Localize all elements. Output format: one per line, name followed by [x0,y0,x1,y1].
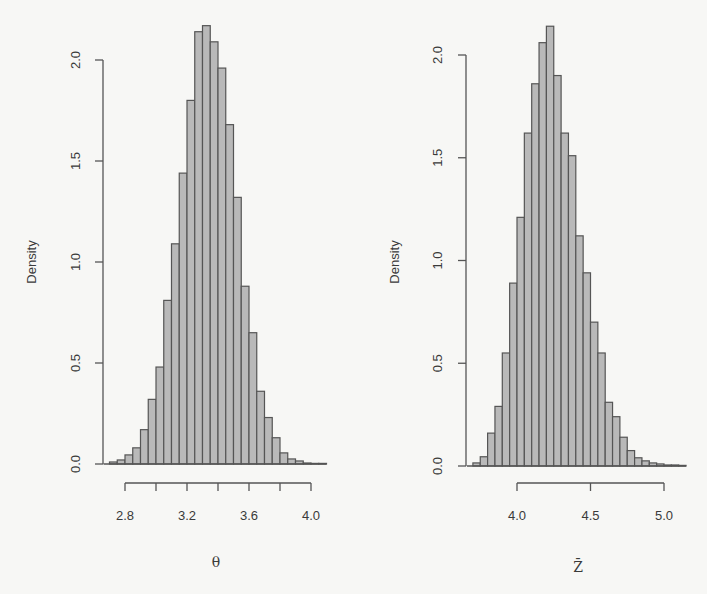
histogram-bar [488,433,495,466]
histogram-bar [164,300,172,464]
x-tick-label: 4.5 [581,508,599,523]
histogram-bar [265,418,273,464]
x-axis-title: θ [212,554,220,570]
histogram-bar [172,244,180,464]
histogram-bar [605,402,612,466]
y-tick-label: 0.5 [68,354,83,372]
y-axis: 0.00.51.01.52.0 [430,46,466,475]
histogram-bar [598,353,605,466]
y-tick-label: 0.0 [430,457,445,475]
histogram-bar [524,133,531,466]
histogram-bar [591,322,598,466]
y-tick-label: 0.5 [430,354,445,372]
histogram-bar [257,391,265,464]
histogram-bar [517,217,524,466]
histogram-bar [179,173,187,464]
histogram-panel-theta: 0.00.51.01.52.0 2.83.23.64.0 Density θ [24,26,327,570]
x-tick-label: 5.0 [655,508,673,523]
histogram-bar [148,399,156,464]
histogram-bar [539,43,546,466]
histogram-bar [187,100,195,464]
histogram-bar [195,32,203,464]
histogram-panel-zbar: 0.00.51.01.52.0 4.04.55.0 Density Z̄ [387,26,686,575]
x-tick-label: 2.8 [116,508,134,523]
histogram-bar [627,451,634,466]
histogram-bar [288,459,296,464]
figure: 0.00.51.01.52.0 2.83.23.64.0 Density θ 0… [0,0,707,594]
x-tick-label: 4.0 [508,508,526,523]
y-tick-label: 2.0 [68,51,83,69]
histogram-bar [532,84,539,466]
x-axis-title: Z̄ [573,558,583,575]
histogram-bar [272,438,280,464]
histogram-bar [495,406,502,466]
y-tick-label: 1.5 [68,152,83,170]
histogram-bar [583,273,590,466]
histogram-bar [241,286,249,464]
histogram-bar [546,26,553,466]
histogram-bar [642,461,649,466]
histogram-bar [554,76,561,466]
y-tick-label: 1.0 [68,253,83,271]
y-tick-label: 2.0 [430,46,445,64]
y-tick-label: 1.0 [430,251,445,269]
histogram-bar [234,197,242,464]
histogram-bar [613,417,620,466]
histogram-bar [561,133,568,466]
y-axis: 0.00.51.01.52.0 [68,51,103,473]
histogram-bar [141,430,149,464]
x-tick-label: 3.2 [178,508,196,523]
histogram-bar [133,448,141,464]
x-axis: 4.04.55.0 [508,483,673,523]
y-axis-title: Density [387,240,402,284]
histogram-bar [156,367,164,464]
histogram-bars [104,26,327,464]
x-tick-label: 3.6 [240,508,258,523]
histogram-bar [210,42,218,464]
histogram-bar [502,353,509,466]
x-tick-label: 4.0 [302,508,320,523]
histogram-bar [249,333,257,464]
histogram-bar [620,437,627,466]
histogram-bars [467,26,686,466]
histogram-bar [635,458,642,466]
y-axis-title: Density [24,240,39,284]
histogram-bar [510,283,517,466]
histogram-bar [480,457,487,466]
y-tick-label: 1.5 [430,149,445,167]
histogram-bar [203,26,211,464]
y-tick-label: 0.0 [68,455,83,473]
histogram-bar [568,156,575,466]
histogram-bar [226,125,234,464]
histogram-bar [218,68,226,464]
x-axis: 2.83.23.64.0 [116,483,320,523]
histogram-bar [576,236,583,466]
histogram-bar [280,453,288,464]
histogram-bar [125,455,133,464]
